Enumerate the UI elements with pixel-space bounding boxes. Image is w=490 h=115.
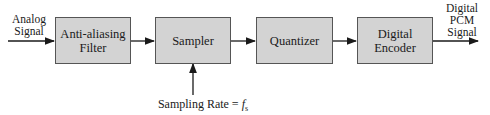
block-digital-encoder: DigitalEncoder bbox=[357, 17, 433, 64]
sampling-rate-label: Sampling Rate = fs bbox=[148, 98, 258, 115]
block-anti-aliasing-filter: Anti-aliasingFilter bbox=[55, 17, 131, 64]
input-label: Analog Signal bbox=[6, 13, 52, 37]
block-quantizer: Quantizer bbox=[256, 17, 333, 64]
block-sampler: Sampler bbox=[155, 17, 231, 64]
output-label: Digital PCM Signal bbox=[437, 2, 487, 38]
